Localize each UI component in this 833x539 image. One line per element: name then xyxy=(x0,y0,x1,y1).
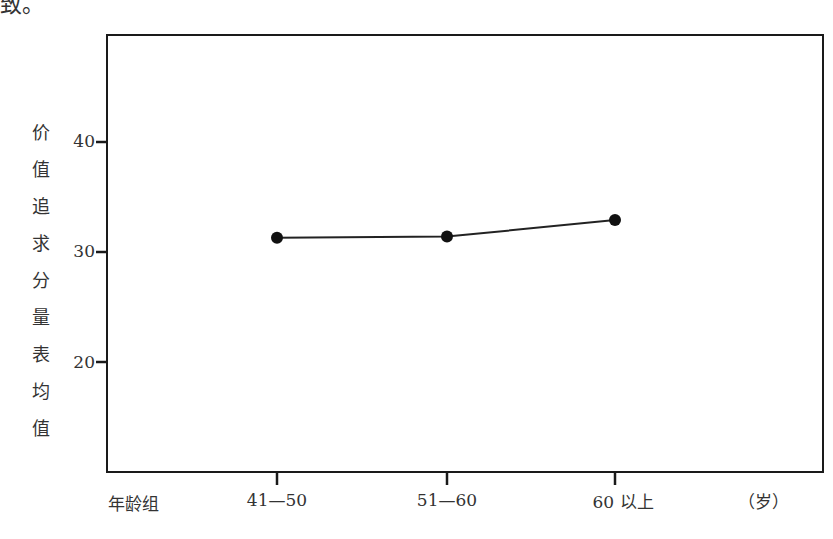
data-point-marker xyxy=(609,214,621,226)
data-point-marker xyxy=(441,231,453,243)
x-axis-ticks xyxy=(277,472,615,485)
data-markers xyxy=(271,214,621,244)
y-axis-ticks xyxy=(96,142,107,362)
line-plot xyxy=(0,0,833,539)
data-point-marker xyxy=(271,232,283,244)
